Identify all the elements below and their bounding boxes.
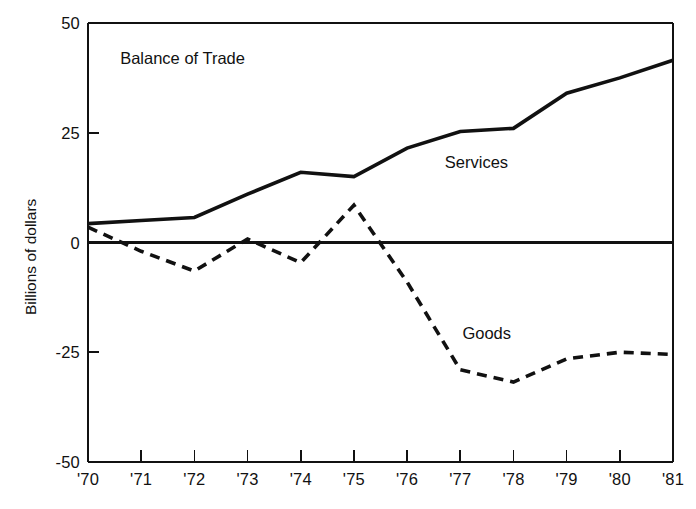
series-line-services [88,60,673,223]
chart-title-annotation: Balance of Trade [120,49,245,68]
x-tick-label-7: '77 [449,470,471,489]
x-tick-label-5: '75 [343,470,365,489]
tick-marks-group [88,133,620,462]
y-tick-label-1: 25 [30,123,80,142]
x-tick-label-4: '74 [290,470,312,489]
x-tick-label-9: '79 [556,470,578,489]
series-label-goods: Goods [462,324,511,343]
chart-canvas [0,0,696,509]
x-tick-label-1: '71 [130,470,152,489]
chart-figure: 50250-25-50 '70'71'72'73'74'75'76'77'78'… [0,0,696,509]
series-line-goods [88,205,673,382]
y-tick-label-0: 50 [30,14,80,33]
x-tick-label-6: '76 [396,470,418,489]
y-tick-label-4: -50 [30,453,80,472]
x-tick-label-3: '73 [236,470,258,489]
x-tick-label-2: '72 [183,470,205,489]
x-tick-label-8: '78 [502,470,524,489]
series-label-services: Services [445,153,508,172]
y-tick-label-3: -25 [30,343,80,362]
x-tick-label-11: '81 [662,470,684,489]
x-tick-label-0: '70 [77,470,99,489]
y-axis-title: Billions of dollars [22,198,40,314]
x-tick-label-10: '80 [609,470,631,489]
